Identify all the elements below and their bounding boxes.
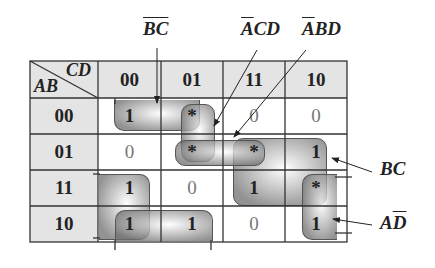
- label-acd-bar: ACD: [241, 18, 280, 40]
- grid-and-arrows: [0, 0, 435, 268]
- arrow-ad-bar: [333, 219, 372, 225]
- label-bc: BC: [380, 158, 405, 180]
- label-abd-bar: ABD: [302, 18, 341, 40]
- label-bc-bar: BC: [143, 18, 168, 40]
- label-ad-bar: AD: [380, 212, 406, 234]
- arrow-abd-bar: [234, 50, 306, 137]
